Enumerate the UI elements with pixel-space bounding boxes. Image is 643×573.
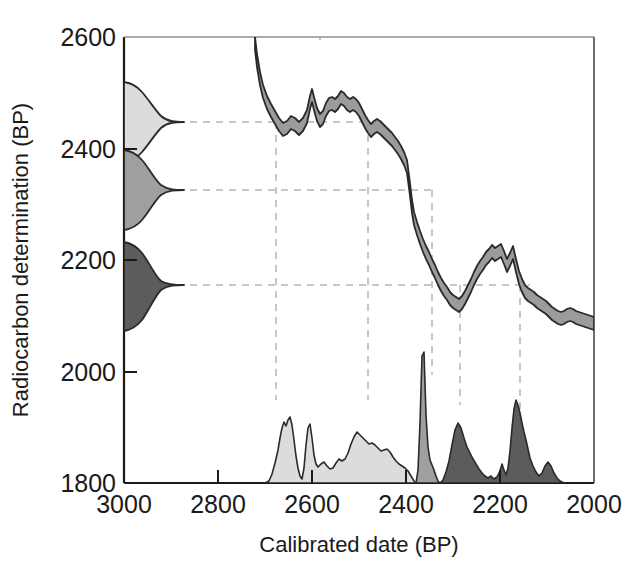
x-tick-label: 2000 — [566, 490, 622, 518]
y-axis-title: Radiocarbon determination (BP) — [8, 103, 33, 417]
y-tick-label: 1800 — [60, 469, 116, 497]
y-tick-label: 2200 — [60, 246, 116, 274]
x-tick-label: 2800 — [190, 490, 246, 518]
chart-canvas: 3000 2800 2600 2400 2200 2000 1800 2000 … — [0, 0, 643, 573]
x-axis-title: Calibrated date (BP) — [259, 532, 458, 557]
radiocarbon-calibration-figure: 3000 2800 2600 2400 2200 2000 1800 2000 … — [0, 0, 643, 573]
x-tick-label: 2200 — [472, 490, 528, 518]
x-tick-label: 2600 — [284, 490, 340, 518]
x-tick-label: 2400 — [378, 490, 434, 518]
y-tick-label: 2400 — [60, 135, 116, 163]
y-tick-label: 2600 — [60, 23, 116, 51]
y-tick-label: 2000 — [60, 358, 116, 386]
